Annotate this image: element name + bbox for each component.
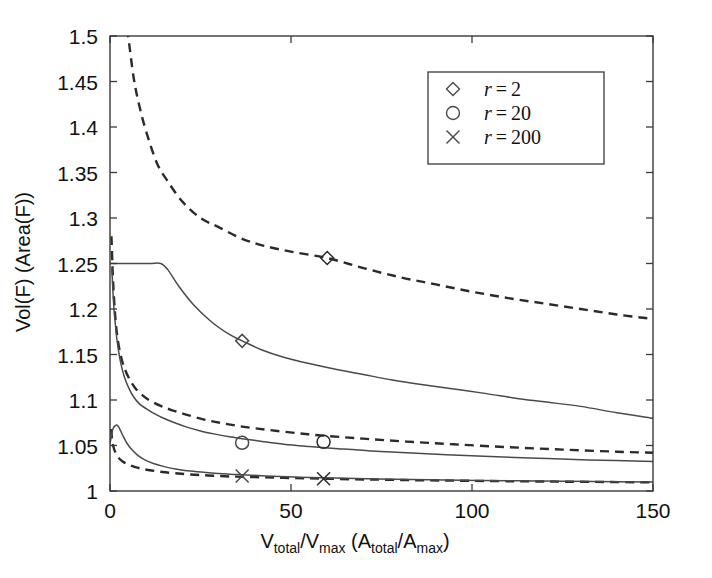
y-tick-label: 1.2 — [69, 298, 98, 321]
y-tick-label: 1 — [86, 480, 98, 503]
xlabel-v2-sub: max — [319, 540, 345, 556]
y-tick-label: 1.45 — [57, 71, 98, 94]
x-tick-label: 100 — [454, 499, 489, 522]
x-tick-label: 150 — [635, 499, 670, 522]
xlabel-v1: V — [260, 530, 274, 552]
xlabel-a1: A — [358, 530, 372, 552]
y-tick-label: 1.4 — [69, 116, 99, 139]
xlabel-a2-sub: max — [416, 540, 442, 556]
xlabel-a1-sub: total — [371, 540, 397, 556]
y-tick-label: 1.3 — [69, 207, 98, 230]
line-chart-svg: 11.051.11.151.21.251.31.351.41.451.50501… — [0, 0, 712, 578]
xlabel-open: ( — [346, 530, 359, 552]
y-axis-title-text: Vol(F) (Area(F)) — [12, 192, 34, 332]
xlabel-v1-sub: total — [274, 540, 300, 556]
x-tick-label: 0 — [104, 499, 116, 522]
y-tick-label: 1.15 — [57, 344, 98, 367]
y-axis-title: Vol(F) (Area(F)) — [12, 192, 34, 332]
xlabel-a2: A — [403, 530, 417, 552]
y-tick-label: 1.25 — [57, 253, 98, 276]
chart-figure: 11.051.11.151.21.251.31.351.41.451.50501… — [0, 0, 712, 578]
xlabel-v2: V — [306, 530, 320, 552]
y-tick-label: 1.05 — [57, 435, 98, 458]
legend: r=2r=20r=200 — [428, 72, 604, 164]
xlabel-close: ) — [443, 530, 450, 552]
x-tick-label: 50 — [279, 499, 302, 522]
y-tick-label: 1.5 — [69, 25, 98, 48]
legend-label: r=2 — [484, 78, 521, 100]
y-tick-label: 1.1 — [69, 389, 98, 412]
y-tick-label: 1.35 — [57, 162, 98, 185]
